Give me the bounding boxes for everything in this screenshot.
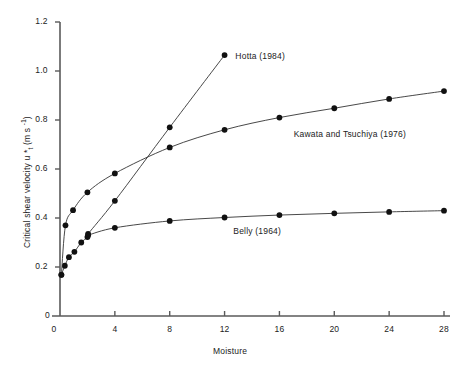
x-axis-title: Moisture [213, 346, 247, 356]
y-axis-title-main: Critical shear velocity u [22, 153, 32, 248]
data-point-marker [167, 218, 173, 224]
y-axis-tick-label: 1.0 [35, 65, 47, 75]
data-point-marker [72, 249, 78, 255]
series-label-2: Kawata and Tsuchiya (1976) [294, 129, 406, 139]
x-axis-tick-label: 24 [384, 324, 394, 334]
data-point-marker [277, 212, 283, 218]
series-label-1: Hotta (1984) [235, 51, 285, 61]
data-point-marker [63, 222, 69, 228]
data-point-marker [85, 232, 91, 238]
y-axis-tick-label: 1.2 [35, 16, 47, 26]
y-axis-tick-label: 0.2 [35, 261, 47, 271]
series-2 [58, 88, 446, 278]
data-point-marker [112, 225, 118, 231]
series-line [61, 55, 224, 275]
data-point-marker [222, 215, 228, 221]
x-axis-tick-label: 20 [329, 324, 339, 334]
data-point-marker [85, 189, 91, 195]
data-point-marker [386, 96, 392, 102]
x-axis-tick-label: 8 [167, 324, 172, 334]
y-axis-title-star: * [22, 150, 32, 154]
y-axis-tick-label: 0.8 [35, 114, 47, 124]
data-point-marker [167, 124, 173, 130]
data-point-marker [441, 88, 447, 94]
data-point-marker [222, 52, 228, 58]
y-axis-tick-label: 0 [45, 310, 50, 320]
chart-figure: Critical shear velocity u *t (m s -1) Mo… [0, 0, 471, 370]
y-axis-tick-label: 0.4 [35, 212, 47, 222]
data-point-marker [277, 115, 283, 121]
series-1 [58, 52, 227, 278]
data-point-marker [78, 240, 84, 246]
data-point-marker [112, 198, 118, 204]
data-point-marker [62, 263, 68, 269]
chart-axes [52, 22, 450, 316]
x-axis-tick-label: 12 [220, 324, 230, 334]
y-axis-title-units-open: (m s [22, 125, 32, 147]
data-point-marker [331, 105, 337, 111]
y-axis-title-units-close: ) [22, 116, 32, 119]
data-point-marker [66, 254, 72, 260]
data-point-marker [58, 272, 64, 278]
y-axis-title: Critical shear velocity u *t (m s -1) [20, 116, 34, 248]
y-axis-title-units-exponent: -1 [20, 119, 27, 125]
series-label-3: Belly (1964) [233, 226, 281, 236]
x-axis-tick-label: 28 [439, 324, 449, 334]
data-point-marker [386, 209, 392, 215]
series-line [61, 91, 444, 275]
data-point-marker [70, 207, 76, 213]
x-axis-tick-label: 4 [112, 324, 117, 334]
x-axis-tick-label: 0 [52, 324, 57, 334]
data-point-marker [112, 171, 118, 177]
x-axis-tick-label: 16 [275, 324, 285, 334]
chart-series-group [58, 52, 446, 278]
data-point-marker [331, 210, 337, 216]
data-point-marker [222, 127, 228, 133]
data-point-marker [167, 145, 173, 151]
y-axis-tick-label: 0.6 [35, 163, 47, 173]
data-point-marker [441, 208, 447, 214]
